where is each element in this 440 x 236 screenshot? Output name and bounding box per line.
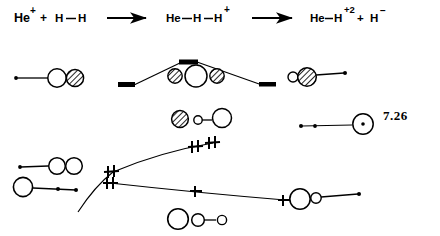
products-h-symbol: H bbox=[334, 12, 342, 24]
lower-left-orbital-circle-line-dots bbox=[13, 177, 78, 196]
reactant-orbital-hatched-circle bbox=[66, 69, 83, 86]
reactants-h-right: H bbox=[78, 12, 86, 24]
reactant-orbital-open-circle bbox=[48, 69, 66, 87]
reactants-he-symbol: He bbox=[14, 11, 30, 25]
products-term: He H +2 + H − bbox=[310, 4, 386, 24]
transition-state-orbital bbox=[168, 65, 224, 87]
ts-charge: + bbox=[224, 4, 230, 15]
products-h-minus-symbol: H bbox=[370, 12, 378, 24]
mid-orbital-small-open-circle bbox=[194, 116, 202, 124]
lower-left-orbital-two-circles bbox=[18, 158, 82, 175]
lower-left-orbital-circle-2 bbox=[66, 158, 83, 175]
upper-curve-left-level-bar bbox=[118, 82, 135, 87]
reactant-orbital-he-plus-h2 bbox=[14, 69, 84, 87]
product-orbital-he-h bbox=[288, 68, 347, 87]
upper-curve-right-level-bar bbox=[259, 82, 276, 87]
reactants-term: He + + H H bbox=[14, 5, 86, 25]
products-he-symbol: He bbox=[310, 12, 325, 24]
reactants-he-charge: + bbox=[30, 5, 36, 16]
mid-orbital-hatched-small-large bbox=[172, 109, 232, 128]
ts-h-mid: H bbox=[193, 12, 201, 24]
product-orbital-hatched-circle bbox=[298, 68, 317, 87]
lower-curve-mid-cross bbox=[190, 186, 202, 197]
product-orbital-axis-line bbox=[316, 73, 344, 75]
reaction-energy-diagram: He + + H H He H H + He H +2 + H − bbox=[0, 0, 440, 236]
lower-energy-curve bbox=[103, 177, 290, 206]
bottom-left-orbital-dot-2 bbox=[74, 188, 78, 192]
mid-orbital-hatched-circle bbox=[172, 111, 189, 128]
middle-curve-mid-cross-double bbox=[188, 140, 203, 153]
middle-curve-right-cross-double bbox=[205, 136, 220, 149]
reactants-h-left: H bbox=[55, 12, 63, 24]
bottom-right-orbital-circle-small-line bbox=[290, 189, 361, 209]
product-orbital-dot bbox=[343, 71, 347, 75]
ts-orbital-center-open-circle bbox=[185, 65, 207, 87]
reaction-equation-row: He + + H H He H H + He H +2 + H − bbox=[14, 4, 386, 25]
right-orbital-center-dot bbox=[361, 122, 365, 126]
reactants-plus-sign: + bbox=[40, 11, 47, 25]
ts-orbital-left-hatched-circle bbox=[168, 69, 182, 83]
lower-left-orbital-axis-line bbox=[21, 166, 48, 167]
bottom-right-orbital-axis-line bbox=[321, 194, 358, 197]
product-orbital-small-open-circle bbox=[288, 72, 298, 82]
products-plus-sign: + bbox=[357, 12, 364, 24]
products-charge: +2 bbox=[344, 4, 355, 15]
lower-left-orbital-circle-1 bbox=[49, 158, 66, 175]
bottom-left-orbital-large-circle bbox=[13, 177, 32, 196]
lower-curve-right-cross bbox=[278, 195, 290, 206]
mid-orbital-large-open-circle bbox=[213, 109, 232, 128]
bottom-center-orbital-large-circle bbox=[168, 209, 189, 230]
bottom-right-orbital-dot bbox=[357, 192, 361, 196]
figure-canvas: He + + H H He H H + He H +2 + H − bbox=[0, 0, 440, 236]
ts-h-right: H bbox=[214, 12, 222, 24]
products-h-minus-charge: − bbox=[380, 5, 386, 16]
bottom-center-orbital-three-circles bbox=[168, 209, 227, 230]
bottom-center-orbital-small-circle bbox=[217, 215, 226, 224]
right-orbital-axis-line bbox=[302, 125, 352, 126]
ts-he-symbol: He bbox=[166, 12, 181, 24]
bottom-center-orbital-medium-circle bbox=[192, 214, 205, 227]
bottom-left-orbital-axis-line bbox=[33, 188, 76, 190]
middle-curve-path bbox=[78, 143, 213, 212]
middle-curve-left-cross-double bbox=[104, 165, 119, 178]
figure-number-label: 7.26 bbox=[383, 108, 408, 124]
middle-energy-curve bbox=[78, 136, 220, 212]
ts-orbital-right-hatched-circle bbox=[210, 69, 224, 83]
right-orbital-dotted-circle bbox=[299, 114, 373, 134]
bottom-right-orbital-small-circle bbox=[311, 193, 321, 203]
upper-curve-peak-level-bar bbox=[179, 60, 198, 65]
bottom-left-orbital-dot-1 bbox=[56, 187, 60, 191]
bottom-right-orbital-large-circle bbox=[290, 189, 310, 209]
transition-state-term: He H H + bbox=[166, 4, 230, 24]
